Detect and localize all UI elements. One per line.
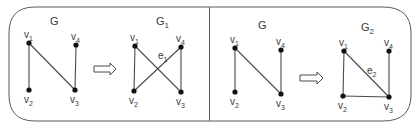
node-label-v3: v3: [276, 98, 285, 111]
node-label-v4-subscript: 4: [281, 42, 285, 49]
node-label-v1-subscript: 1: [135, 38, 139, 45]
node-label-v1: v1: [339, 37, 348, 50]
node-v3: [178, 89, 183, 94]
edge-v1-v3: [235, 48, 281, 94]
node-label-v3-subscript: 3: [281, 104, 285, 111]
node-label-v2: v2: [338, 100, 347, 113]
node-label-v1-subscript: 1: [344, 43, 348, 50]
node-label-v2: v2: [129, 95, 138, 108]
node-label-v2-subscript: 2: [235, 102, 239, 109]
graph-title: G: [50, 15, 59, 27]
node-label-v2: v2: [24, 94, 33, 107]
transform-arrow-icon: [300, 72, 323, 84]
graph-title: G2: [361, 21, 375, 36]
node-label-v3-subscript: 3: [389, 107, 393, 114]
graph-title-main: G: [258, 19, 267, 31]
node-label-v2-subscript: 2: [343, 106, 347, 113]
node-label-v1: v1: [130, 32, 139, 45]
node-label-v4: v4: [71, 31, 80, 44]
graph-title-main: G: [156, 15, 165, 27]
graph-title-main: G: [50, 15, 59, 27]
edge-label-subscript: 2: [373, 71, 377, 78]
node-label-v1: v1: [24, 29, 33, 42]
node-label-v2-subscript: 2: [29, 100, 33, 107]
node-label-v4: v4: [384, 37, 393, 50]
edge-v1-v3: [29, 43, 75, 90]
node-label-v4-subscript: 4: [76, 37, 80, 44]
node-label-v3-subscript: 3: [75, 100, 79, 107]
node-v3: [386, 94, 391, 99]
node-label-v2: v2: [230, 96, 239, 109]
node-label-v4: v4: [276, 36, 285, 49]
node-label-v2-subscript: 2: [134, 101, 138, 108]
node-label-v3: v3: [384, 101, 393, 114]
result-1-graph: v1v4v2v3G2e2: [338, 21, 393, 114]
graph-title-subscript: 2: [370, 27, 375, 36]
transform-arrow-icon: [94, 63, 116, 75]
node-v3: [278, 91, 283, 96]
node-label-v3-subscript: 3: [181, 102, 185, 109]
diagram-canvas: v1v4v2v3Gv1v4v2v3G1e1v1v4v2v3Gv1v4v2v3G2…: [0, 0, 417, 129]
node-label-v4: v4: [176, 33, 185, 46]
edge-v1-v2: [343, 51, 344, 96]
node-v3: [72, 87, 77, 92]
graph-title: G: [258, 19, 267, 31]
node-label-v1: v1: [230, 34, 239, 47]
graph-title: G1: [156, 15, 170, 30]
edge-label: e1: [158, 50, 168, 63]
edge-v1-v2: [134, 46, 135, 91]
node-label-v3: v3: [70, 94, 79, 107]
node-v2: [131, 88, 136, 93]
edge-v2-v3: [343, 96, 389, 97]
edge-label-subscript: 1: [164, 56, 168, 63]
graph-title-main: G: [361, 21, 370, 33]
result-0-graph: v1v4v2v3G1e1: [129, 15, 185, 109]
node-label-v1-subscript: 1: [235, 40, 239, 47]
graph-transformation-diagram: v1v4v2v3Gv1v4v2v3G1e1v1v4v2v3Gv1v4v2v3G2…: [0, 0, 417, 129]
node-label-v1-subscript: 1: [29, 35, 33, 42]
edge-v4-v3: [75, 45, 76, 90]
node-v2: [232, 89, 237, 94]
node-label-v4-subscript: 4: [389, 43, 393, 50]
node-v2: [26, 87, 31, 92]
original-1-graph: v1v4v2v3G: [230, 19, 285, 111]
graph-title-subscript: 1: [165, 21, 170, 30]
node-label-v4-subscript: 4: [181, 39, 185, 46]
node-v2: [340, 93, 345, 98]
node-label-v3: v3: [176, 96, 185, 109]
original-0-graph: v1v4v2v3G: [24, 15, 80, 107]
